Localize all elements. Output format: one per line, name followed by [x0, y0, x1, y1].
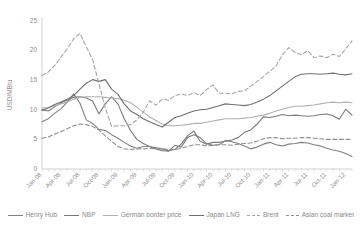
series-line-brent	[42, 33, 352, 126]
legend-label: Japan LNG	[207, 212, 240, 219]
legend-item-brent[interactable]: Brent	[247, 212, 279, 219]
y-tick-25: 25	[30, 17, 38, 24]
x-tick-jan-10: Jan-10	[176, 170, 195, 189]
legend-swatch-solid-line-icon	[103, 215, 118, 216]
x-axis-tick-marks	[42, 169, 352, 172]
x-tick-jul-08: Jul-08	[64, 170, 81, 187]
y-tick-5: 5	[33, 135, 37, 142]
x-tick-oct-10: Oct-10	[233, 170, 251, 188]
x-tick-oct-08: Oct-08	[82, 170, 100, 188]
x-tick-jan-08: Jan-08	[24, 170, 43, 189]
data-series-group	[42, 33, 352, 156]
x-tick-jan-09: Jan-09	[100, 170, 119, 189]
legend-item-henry-hub[interactable]: Henry Hub	[8, 212, 58, 219]
y-tick-20: 20	[30, 46, 38, 53]
x-tick-oct-09: Oct-09	[157, 170, 175, 188]
legend-label: Brent	[263, 212, 279, 219]
x-tick-jan-12: Jan-12	[328, 170, 347, 189]
series-line-japan-lng	[42, 73, 352, 127]
plot-area: 0510152025 Jan-08Apr-08Jul-08Oct-08Jan-0…	[0, 0, 362, 200]
y-axis-tick-labels: 0510152025	[30, 17, 38, 172]
x-tick-apr-11: Apr-11	[272, 170, 290, 188]
x-tick-jul-10: Jul-10	[216, 170, 233, 187]
chart-legend: Henry HubNBPGerman border priceJapan LNG…	[0, 198, 362, 232]
legend-label: Henry Hub	[26, 212, 58, 219]
legend-swatch-solid-line-icon	[8, 215, 23, 216]
x-axis-tick-labels: Jan-08Apr-08Jul-08Oct-08Jan-09Apr-09Jul-…	[24, 170, 346, 189]
legend-item-nbp[interactable]: NBP	[64, 212, 96, 219]
line-chart-svg: 0510152025 Jan-08Apr-08Jul-08Oct-08Jan-0…	[0, 0, 362, 200]
x-tick-apr-10: Apr-10	[195, 170, 213, 188]
x-tick-oct-11: Oct-11	[310, 170, 328, 188]
legend-swatch-solid-line-icon	[64, 215, 79, 216]
y-tick-15: 15	[30, 76, 38, 83]
legend-label: German border price	[121, 212, 182, 219]
legend-swatch-dashed-line-icon	[286, 215, 299, 216]
y-axis-title: USD/MBtu	[6, 79, 13, 110]
legend-item-japan-lng[interactable]: Japan LNG	[189, 212, 240, 219]
legend-item-asian-coal-marker[interactable]: Asian coal marker	[286, 212, 355, 219]
x-tick-jul-09: Jul-09	[140, 170, 157, 187]
x-tick-apr-08: Apr-08	[44, 170, 62, 188]
x-tick-jan-11: Jan-11	[252, 170, 270, 188]
legend-label: NBP	[82, 212, 96, 219]
legend-swatch-dashed-line-icon	[247, 215, 260, 216]
x-tick-apr-09: Apr-09	[120, 170, 138, 188]
price-chart: 0510152025 Jan-08Apr-08Jul-08Oct-08Jan-0…	[0, 0, 362, 234]
legend-item-german-border-price[interactable]: German border price	[103, 212, 182, 219]
y-tick-10: 10	[30, 106, 38, 113]
legend-label: Asian coal marker	[302, 212, 355, 219]
x-tick-jul-11: Jul-11	[292, 170, 309, 187]
legend-swatch-solid-line-icon	[189, 215, 204, 216]
